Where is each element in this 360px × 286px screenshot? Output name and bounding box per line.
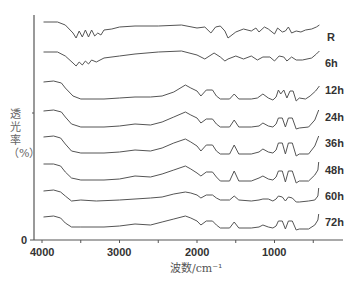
spectrum-line-24h bbox=[44, 110, 319, 129]
series-label-24h: 24h bbox=[325, 111, 344, 123]
series-label-72h: 72h bbox=[325, 216, 344, 228]
x-tick-label-2000: 2000 bbox=[185, 246, 209, 258]
series-label-r: R bbox=[327, 31, 335, 43]
spectrum-line-48h bbox=[44, 162, 319, 183]
series-label-6h: 6h bbox=[325, 57, 338, 69]
spectrum-line-r bbox=[44, 22, 320, 38]
ftir-chart: 0 4000 3000 2000 1000 波数/cm⁻¹ R 6h 12h 2… bbox=[0, 0, 360, 286]
series-label-12h: 12h bbox=[325, 84, 344, 96]
spectrum-line-72h bbox=[44, 214, 319, 230]
series-label-60h: 60h bbox=[325, 190, 344, 202]
x-tick-label-3000: 3000 bbox=[107, 246, 131, 258]
y-zero-label: 0 bbox=[21, 234, 27, 246]
x-axis-title: 波数/cm⁻¹ bbox=[170, 262, 223, 275]
spectrum-line-36h bbox=[44, 136, 319, 156]
spectra-series bbox=[44, 22, 320, 230]
x-tick-label-1000: 1000 bbox=[262, 246, 286, 258]
spectrum-line-60h bbox=[44, 188, 319, 202]
x-tick-label-4000: 4000 bbox=[30, 246, 54, 258]
y-axis-title: 透光率（%） bbox=[8, 108, 22, 160]
series-label-48h: 48h bbox=[325, 164, 344, 176]
spectrum-line-6h bbox=[44, 51, 320, 66]
spectrum-line-12h bbox=[44, 81, 320, 101]
series-label-36h: 36h bbox=[325, 137, 344, 149]
